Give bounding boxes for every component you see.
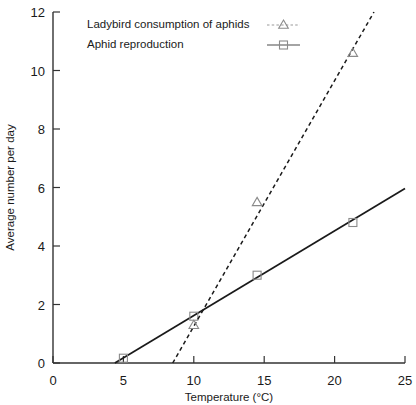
y-axis-ticks [53,12,60,363]
legend-label-aphid-reproduction: Aphid reproduction [87,38,184,50]
x-tick-label-25: 25 [398,373,412,388]
y-tick-label-8: 8 [38,122,45,137]
series-markers-aphid-reproduction [119,219,357,363]
y-tick-label-2: 2 [38,298,45,313]
legend-sample-aphid-reproduction [267,41,300,49]
series-line-aphid-reproduction [115,189,405,364]
x-axis-ticks [53,356,405,363]
chart-container: 0 2 4 6 8 10 12 0 5 10 15 20 25 Temperat… [0,0,416,405]
x-tick-label-10: 10 [187,373,201,388]
series-markers-ladybird-consumption [189,48,358,328]
y-tick-label-10: 10 [31,64,45,79]
x-tick-label-0: 0 [49,373,56,388]
triangle-icon [279,20,289,28]
x-tick-label-5: 5 [120,373,127,388]
x-tick-label-20: 20 [327,373,341,388]
y-tick-label-0: 0 [38,356,45,371]
y-tick-label-12: 12 [31,5,45,20]
legend: Ladybird consumption of aphids Aphid rep… [87,18,300,50]
legend-sample-ladybird-consumption [267,20,300,28]
y-tick-label-6: 6 [38,181,45,196]
y-axis-title: Average number per day [4,124,16,251]
x-axis-title: Temperature (°C) [185,391,273,403]
y-tick-label-4: 4 [38,239,45,254]
chart-svg: 0 2 4 6 8 10 12 0 5 10 15 20 25 Temperat… [0,0,416,405]
x-tick-label-15: 15 [257,373,271,388]
series-line-ladybird-consumption [173,12,374,363]
legend-label-ladybird-consumption: Ladybird consumption of aphids [87,18,250,30]
